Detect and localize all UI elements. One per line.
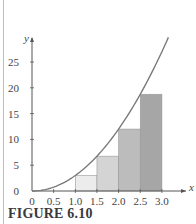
y-tick-label: 25 xyxy=(8,56,20,68)
y-tick-label: 20 xyxy=(8,82,20,94)
y-axis-arrow-icon xyxy=(30,37,34,42)
bar-3 xyxy=(140,94,162,191)
x-axis-label: x xyxy=(188,181,194,193)
y-tick-label: 5 xyxy=(14,159,20,171)
bar-0 xyxy=(75,176,97,191)
x-tick-label: 2.0 xyxy=(112,195,126,207)
x-tick-label: 3.0 xyxy=(155,195,169,207)
bar-1 xyxy=(97,156,119,191)
bar-2 xyxy=(119,129,141,191)
y-tick-label: 0 xyxy=(14,185,20,197)
y-axis-label: y xyxy=(23,32,29,44)
x-tick-label: 2.5 xyxy=(133,195,147,207)
riemann-sum-chart: 00.51.01.52.02.53.00510152025xy xyxy=(0,0,196,224)
x-axis-arrow-icon xyxy=(181,189,186,193)
y-tick-label: 15 xyxy=(8,108,20,120)
y-tick-label: 10 xyxy=(8,133,20,145)
figure-caption: FIGURE 6.10 xyxy=(8,206,93,222)
